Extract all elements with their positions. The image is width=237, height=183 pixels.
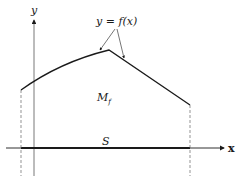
- function-graph-diagram: y x S y = f(x) Mf: [0, 0, 237, 183]
- x-axis-label: x: [228, 142, 235, 155]
- function-label: y = f(x): [95, 15, 137, 28]
- support-label: S: [102, 135, 110, 148]
- y-axis-label: y: [30, 4, 38, 17]
- pointer-arrow-right: [117, 29, 124, 58]
- pointer-arrow-left: [100, 29, 115, 50]
- region-label: Mf: [96, 91, 112, 106]
- region-label-main: M: [96, 91, 109, 104]
- region-label-subscript: f: [107, 98, 112, 106]
